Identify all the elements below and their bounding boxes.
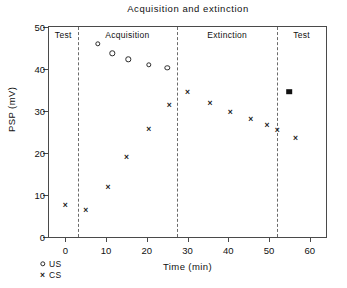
phase-label-acquisition-1: Acquisition: [78, 30, 178, 40]
y-axis-tick-label: 50: [34, 22, 45, 33]
x-axis-tick: [147, 237, 148, 242]
chart-title: Acquisition and extinction: [48, 3, 328, 14]
data-point-cs: ×: [292, 134, 299, 141]
x-axis-tick: [188, 237, 189, 242]
x-axis-tick-label: 10: [101, 245, 112, 256]
chart-figure: Acquisition and extinction 0102030405001…: [0, 0, 347, 288]
data-point-us: [109, 51, 114, 56]
data-point-cs: ×: [206, 99, 213, 106]
x-axis-tick-label: 30: [182, 245, 193, 256]
y-axis-tick-label: 0: [40, 232, 45, 243]
plot-area: 010203040500102030405060TestAcquisitionE…: [48, 26, 327, 238]
phase-label-extinction-2: Extinction: [177, 30, 277, 40]
x-marker-icon: ×: [38, 270, 47, 279]
data-point-cs: ×: [227, 109, 234, 116]
data-point-us: [95, 41, 100, 46]
x-axis-tick-label: 0: [63, 245, 68, 256]
x-axis-tick: [65, 237, 66, 242]
data-point-test-filled: [287, 89, 293, 95]
data-point-cs: ×: [166, 102, 173, 109]
phase-divider-line: [78, 27, 79, 237]
open-circle-marker-icon: [38, 259, 47, 268]
data-point-us: [146, 62, 151, 67]
data-point-cs: ×: [247, 116, 254, 123]
data-point-us: [164, 65, 169, 70]
data-point-us: [126, 57, 131, 62]
x-axis-tick-label: 60: [304, 245, 315, 256]
y-axis-tick-label: 10: [34, 190, 45, 201]
y-axis-tick-label: 40: [34, 64, 45, 75]
data-point-cs: ×: [123, 154, 130, 161]
data-point-cs: ×: [184, 88, 191, 95]
data-point-cs: ×: [82, 206, 89, 213]
legend-entry: ×CS: [38, 269, 61, 280]
data-point-cs: ×: [62, 202, 69, 209]
phase-label-test-0: Test: [49, 30, 78, 40]
x-axis-tick: [106, 237, 107, 242]
y-axis-tick-label: 30: [34, 106, 45, 117]
y-axis-tick-label: 20: [34, 148, 45, 159]
x-axis-tick-label: 40: [223, 245, 234, 256]
y-axis-title: PSP (mV): [6, 87, 17, 132]
phase-divider-line: [177, 27, 178, 237]
data-point-cs: ×: [145, 126, 152, 133]
legend-label: CS: [49, 270, 61, 280]
data-point-cs: ×: [105, 183, 112, 190]
data-point-cs: ×: [274, 126, 281, 133]
x-axis-tick-label: 50: [264, 245, 275, 256]
x-axis-tick-label: 20: [141, 245, 152, 256]
phase-label-test-3: Test: [277, 30, 326, 40]
data-point-cs: ×: [263, 122, 270, 129]
x-axis-tick: [310, 237, 311, 242]
legend-entry: US: [38, 258, 61, 269]
chart-legend: US×CS: [38, 258, 61, 280]
x-axis-title: Time (min): [48, 261, 327, 272]
x-axis-tick: [228, 237, 229, 242]
legend-label: US: [49, 259, 61, 269]
x-axis-tick: [269, 237, 270, 242]
